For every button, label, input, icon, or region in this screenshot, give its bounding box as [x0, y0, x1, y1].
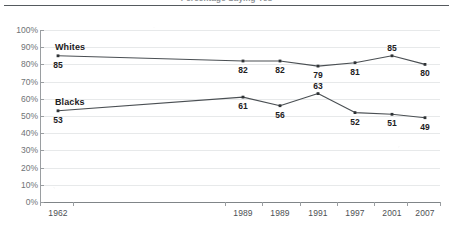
data-point-marker — [57, 109, 60, 112]
data-value-label-blacks: 52 — [350, 117, 360, 127]
data-point-marker — [391, 54, 394, 57]
data-value-label-whites: 85 — [387, 43, 397, 53]
data-value-label-blacks: 51 — [387, 118, 397, 128]
data-point-marker — [424, 116, 427, 119]
line-chart: 0%10%20%30%40%50%60%70%80%90%100% 196219… — [0, 12, 453, 224]
data-value-label-whites: 80 — [420, 68, 430, 78]
data-point-marker — [317, 65, 320, 68]
series-label-blacks: Blacks — [55, 97, 85, 107]
data-value-label-blacks: 56 — [275, 110, 285, 120]
data-value-label-blacks: 49 — [420, 122, 430, 132]
data-point-marker — [354, 111, 357, 114]
figure-page: Percentage Saying Yes 0%10%20%30%40%50%6… — [0, 0, 453, 229]
data-value-label-whites: 85 — [53, 60, 63, 70]
data-value-label-blacks: 63 — [313, 81, 323, 91]
data-point-marker — [424, 63, 427, 66]
data-point-marker — [242, 60, 245, 63]
header-divider-rule — [4, 5, 449, 6]
data-value-label-whites: 79 — [313, 70, 323, 80]
data-value-label-blacks: 61 — [238, 101, 248, 111]
data-point-marker — [391, 113, 394, 116]
data-point-marker — [317, 92, 320, 95]
data-value-label-blacks: 53 — [53, 115, 63, 125]
data-value-label-whites: 82 — [275, 65, 285, 75]
clipped-figure-heading: Percentage Saying Yes — [0, 0, 453, 4]
data-point-marker — [279, 60, 282, 63]
data-value-label-whites: 82 — [238, 65, 248, 75]
series-label-whites: Whites — [55, 42, 85, 52]
data-value-label-whites: 81 — [350, 67, 360, 77]
data-point-marker — [57, 54, 60, 57]
data-point-marker — [279, 104, 282, 107]
data-point-marker — [354, 61, 357, 64]
data-point-marker — [242, 96, 245, 99]
